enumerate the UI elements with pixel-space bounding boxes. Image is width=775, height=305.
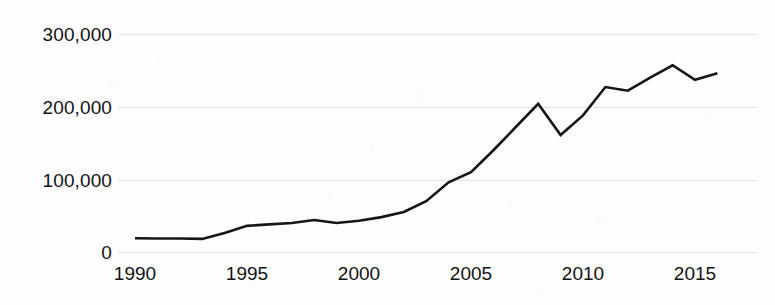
plot-area: 300,000 200,000 100,000 0 1990 1995 2000… bbox=[0, 0, 775, 305]
series-layer bbox=[0, 0, 775, 305]
series-line bbox=[135, 65, 717, 239]
line-chart: 300,000 200,000 100,000 0 1990 1995 2000… bbox=[0, 0, 775, 305]
